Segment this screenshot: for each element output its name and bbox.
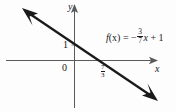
x-intercept-label: 7 3 [101, 64, 105, 79]
x-axis [6, 57, 158, 64]
equation-plus-sign: + [150, 32, 156, 43]
x-intercept-fraction: 7 3 [101, 64, 105, 79]
graph-figure: y x 0 1 7 3 f(x) = −37x + 1 [0, 0, 176, 112]
equation-minus-sign: − [131, 32, 137, 43]
x-intercept-numerator: 7 [101, 64, 105, 71]
equation-variable: x [143, 32, 147, 43]
x-intercept-denominator: 3 [101, 71, 105, 79]
y-axis-label: y [68, 2, 72, 12]
equation-equals: = [123, 32, 129, 43]
coordinate-plane-svg [0, 0, 176, 112]
y-axis [71, 4, 78, 108]
y-intercept-label: 1 [63, 40, 68, 50]
function-line [22, 8, 158, 101]
x-axis-label: x [155, 64, 159, 74]
equation-label: f(x) = −37x + 1 [106, 28, 164, 44]
equation-intercept-value: 1 [159, 32, 164, 43]
equation-argument: (x) [109, 32, 121, 43]
origin-label: 0 [62, 63, 67, 73]
